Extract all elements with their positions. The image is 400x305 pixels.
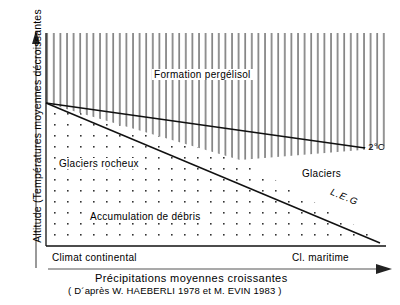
- x-axis-arrow-head: [376, 264, 392, 274]
- figure-credit: ( D´après W. HAEBERLI 1978 et M. EVIN 19…: [68, 285, 282, 296]
- zone-label-glaciers-rocheux: Glaciers rocheux: [57, 158, 141, 169]
- y-axis-label: Altitude (Températures moyennes décroiss…: [31, 1, 43, 251]
- x-axis-right-end-label: Cl. maritime: [292, 252, 349, 263]
- isotherm-minus2c-label: – 2°C: [360, 141, 385, 152]
- zone-label-accumulation-debris: Accumulation de débris: [88, 211, 203, 222]
- zone-label-formation-pergelisol: Formation pergélisol: [152, 69, 253, 80]
- diagram-figure: Altitude (Températures moyennes décroiss…: [0, 0, 400, 305]
- zone-label-glaciers: Glaciers: [302, 168, 341, 179]
- x-axis-label: Précipitations moyennes croissantes: [95, 272, 288, 284]
- x-axis-left-end-label: Climat continental: [52, 252, 137, 263]
